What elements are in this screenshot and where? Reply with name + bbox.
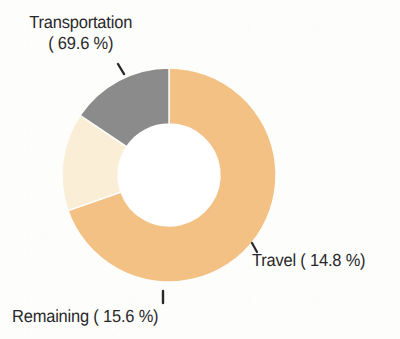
donut-hole bbox=[118, 124, 220, 226]
slice-label-travel: Travel ( 14.8 %) bbox=[252, 250, 365, 271]
slice-label-remaining-text: Remaining ( 15.6 %) bbox=[12, 306, 158, 326]
slice-label-remaining: Remaining ( 15.6 %) bbox=[12, 306, 158, 327]
leader-tick-transportation bbox=[118, 64, 124, 74]
slice-label-transportation-value: ( 69.6 %) bbox=[29, 33, 132, 54]
slice-label-transportation-name: Transportation bbox=[29, 12, 132, 33]
slice-label-transportation: Transportation ( 69.6 %) bbox=[29, 12, 132, 54]
donut-chart-figure: Transportation ( 69.6 %) Travel ( 14.8 %… bbox=[0, 0, 400, 339]
slice-label-travel-text: Travel ( 14.8 %) bbox=[252, 250, 365, 270]
